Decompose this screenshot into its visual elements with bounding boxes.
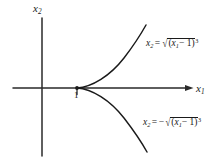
- lower-eq-radicand-minus-one: − 1: [182, 117, 194, 127]
- x1-axis-label-subscript: 1: [201, 88, 205, 96]
- upper-eq-equals-sign: =: [153, 38, 161, 48]
- upper-eq-exponent: 3: [195, 37, 198, 44]
- lower-eq-paren-close: ): [194, 117, 197, 127]
- semicubical-parabola-figure: x2 x1 1 x2=√(x1− 1)3 x2=−√(x1− 1)3: [0, 0, 223, 165]
- curve-upper-branch: [77, 25, 146, 88]
- plot-canvas: [0, 0, 223, 165]
- upper-eq-radicand: (x1− 1): [167, 38, 195, 50]
- upper-eq-radicand-minus-one: − 1: [179, 38, 191, 48]
- x2-axis-label: x2: [33, 3, 42, 16]
- upper-eq-radical: √(x1− 1): [162, 37, 195, 49]
- lower-eq-radical-sign: √: [165, 117, 170, 128]
- x1-axis-label: x1: [196, 83, 205, 96]
- curve-lower-branch: [77, 88, 147, 152]
- x2-axis-label-subscript: 2: [38, 8, 42, 16]
- upper-eq-radical-sign: √: [162, 38, 167, 49]
- x1-axis-arrowhead: [185, 85, 194, 91]
- lower-eq-radical: √(x1− 1): [165, 116, 198, 128]
- equation-label-upper-branch: x2=√(x1− 1)3: [146, 37, 198, 49]
- lower-eq-radicand: (x1− 1): [170, 117, 198, 129]
- x1-tick-label-1: 1: [74, 91, 79, 100]
- equation-label-lower-branch: x2=−√(x1− 1)3: [143, 116, 201, 128]
- upper-eq-paren-close: ): [191, 38, 194, 48]
- lower-eq-exponent: 3: [198, 116, 201, 123]
- lower-eq-equals-sign: =: [150, 117, 158, 127]
